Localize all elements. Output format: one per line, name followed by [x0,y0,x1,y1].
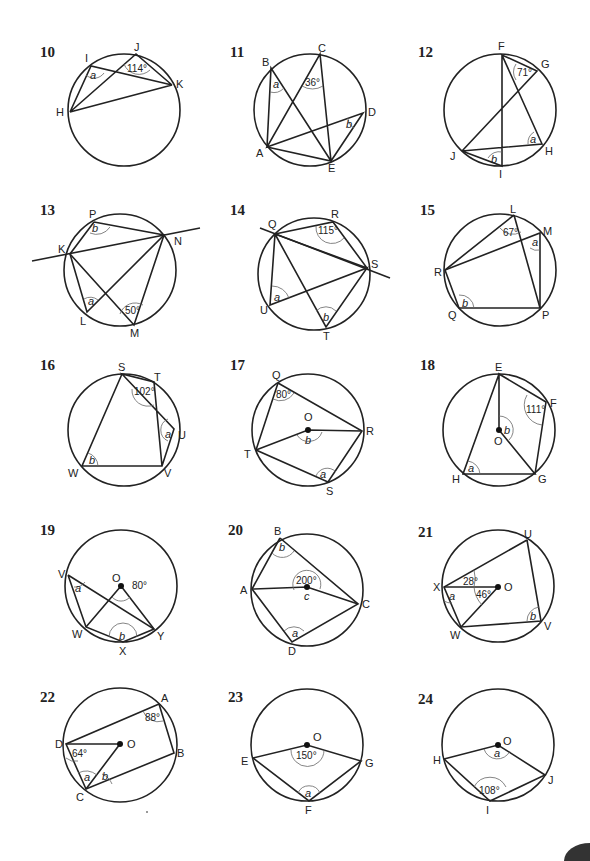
point-label: D [368,106,376,118]
stray-mark [146,811,148,813]
problem-12: 12 F G H I J 71° a b [390,0,590,180]
point-label: O [504,581,513,593]
circle-diagram: V O W X Y 80° a b [0,500,200,670]
point-label: T [323,330,330,342]
problem-24: 24 O H J I 108° a [390,665,590,861]
point-label: V [164,467,172,479]
given-angle: 46° [476,589,491,600]
given-angle: 71° [517,67,532,78]
unknown-angle: a [75,582,81,594]
point-label: B [262,56,269,68]
problem-17: 17 Q O R T S 80° b a [190,345,390,505]
point-label: G [541,58,550,70]
unknown-angle: a [90,69,96,81]
point-label: T [154,371,161,383]
point-label: X [433,581,441,593]
point-label: P [89,208,96,220]
point-label: W [68,467,79,479]
point-label: R [331,208,339,220]
point-label: J [450,150,456,162]
circle-diagram: A D O B C 88° 64° a b [0,665,200,861]
circle-diagram: U X O W V 28° 46° a b [390,500,590,670]
point-label: C [318,42,326,54]
unknown-angle: a [84,771,90,783]
circle-diagram: F G H I J 71° a b [390,0,590,180]
given-angle: 64° [72,748,87,759]
point-label: H [56,106,64,118]
circle-diagram: Q R S T U 115° a b [190,180,390,350]
unknown-angle: a [468,462,474,474]
problem-13: 13 P K N L M 50° b a [0,180,200,350]
point-label: O [313,731,322,743]
point-label: O [127,738,136,750]
given-angle: 114° [127,63,147,74]
unknown-angle: a [320,468,326,480]
point-label: X [119,645,127,657]
point-label: B [274,525,281,537]
point-label: I [486,804,489,816]
problem-10: 10 I J K H 114° a [0,0,200,180]
point-label: F [550,397,557,409]
problem-11: 11 B C D A E 36° a b [190,0,390,180]
given-angle: 67° [503,227,518,238]
point-label: M [543,225,552,237]
point-label: Q [272,369,281,381]
unknown-angle: b [491,153,497,165]
point-label: J [134,41,140,53]
point-label: K [176,78,184,90]
point-label: E [328,162,335,174]
point-label: E [241,755,248,767]
circle-diagram: P K N L M 50° b a [0,180,200,350]
point-label: H [452,473,460,485]
point-label: U [178,429,186,441]
given-angle: 88° [145,712,160,723]
unknown-angle: b [119,630,125,642]
point-label: T [244,448,251,460]
problem-15: 15 L M R Q P 67° a b [390,180,590,350]
unknown-angle: a [273,78,279,90]
unknown-angle: b [89,454,95,466]
unknown-angle: b [530,610,536,622]
point-label: A [256,147,264,159]
point-label: D [55,738,63,750]
point-label: W [72,628,83,640]
point-label: K [58,243,66,255]
given-angle: 80° [132,580,147,591]
unknown-angle: b [323,311,329,323]
problem-20: 20 B A C D 200° b a c [190,500,390,670]
point-label: W [450,629,461,641]
point-label: B [177,747,184,759]
circle-diagram: E F O H G 111° b a [390,345,590,505]
problem-14: 14 Q R S T U 115° a b [190,180,390,350]
point-label: H [545,145,553,157]
circle-diagram: L M R Q P 67° a b [390,180,590,350]
unknown-angle: b [346,118,352,130]
point-label: V [58,568,66,580]
point-label: S [371,258,378,270]
point-label: F [498,40,505,52]
point-label: Q [268,218,277,230]
point-label: U [524,528,532,540]
point-label: A [240,584,248,596]
point-label: Q [448,309,457,321]
given-angle: 111° [526,404,545,415]
unknown-angle: b [462,297,468,309]
point-label: H [433,754,441,766]
given-angle: 102° [134,386,155,397]
point-label: S [118,361,125,373]
given-angle: 36° [305,77,320,88]
unknown-angle: b [92,222,98,234]
point-label: N [174,235,182,247]
given-angle: 80° [276,389,291,400]
given-angle: 108° [479,785,500,796]
point-label: Y [157,630,165,642]
unknown-angle: a [532,236,538,248]
point-label: I [499,168,502,180]
point-label: R [366,425,374,437]
point-label: D [288,645,296,657]
circle-diagram: S T U V W 102° a b [0,345,200,505]
unknown-angle: a [305,787,311,799]
point-label: M [130,327,139,339]
circle-diagram: B C D A E 36° a b [190,0,390,180]
point-label: U [260,304,268,316]
